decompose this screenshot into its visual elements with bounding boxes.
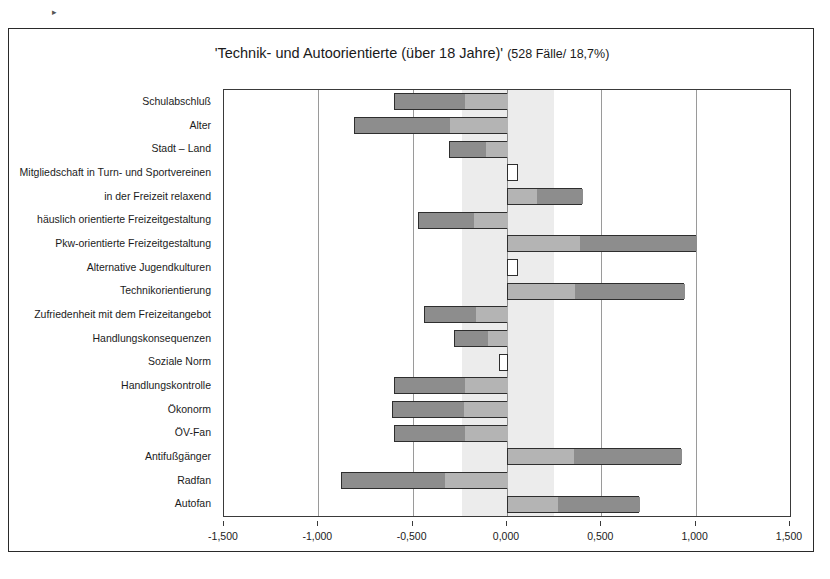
category-label: Autofan [175,497,211,509]
chart-title-sub: (528 Fälle/ 18,7%) [507,47,609,61]
value-axis-labels: -1,500-1,000-0,5000,0000,5001,0001,500 [223,521,791,543]
axis-tick-label: 1,500 [776,530,802,542]
bar [507,283,684,300]
bar-segment-light [464,402,508,417]
category-label: Schulabschluß [142,95,211,107]
category-label: Antifußgänger [145,450,211,462]
bar [449,141,507,158]
chart-title-main: 'Technik- und Autoorientierte (über 18 J… [215,45,503,61]
bar-segment-dark [450,142,486,157]
bar [507,164,518,181]
bar [499,354,508,371]
axis-tick-label: -1,500 [208,530,238,542]
gridline [318,90,319,516]
bar-segment-light [508,284,575,299]
bar-segment-light [508,189,537,204]
bar-segment-light [508,497,558,512]
category-label: Alternative Jugendkulturen [87,261,211,273]
plot-area [223,89,791,517]
bar-segment-dark [580,236,697,251]
bar-segment-light [450,118,508,133]
chart-title: 'Technik- und Autoorientierte (über 18 J… [9,45,815,61]
bar [341,472,507,489]
category-label: Technikorientierung [120,284,211,296]
bar-segment-light [476,307,508,322]
bar-segment-light [488,331,508,346]
plot-inner [224,90,790,516]
stray-mark: ▸ [52,8,59,16]
category-label: Handlungskonsequenzen [92,332,211,344]
axis-tick-mark [223,521,224,526]
bar-segment-dark [574,449,682,464]
bar-segment-light [465,426,508,441]
axis-tick-mark [789,521,790,526]
axis-tick-label: 1,000 [682,530,708,542]
bar-segment-dark [455,331,488,346]
category-label: häuslich orientierte Freizeitgestaltung [37,213,211,225]
bar [454,330,507,347]
axis-tick-mark [506,521,507,526]
category-label: ÖV-Fan [175,426,211,438]
bar [392,401,507,418]
category-label: Soziale Norm [148,355,211,367]
category-label: Ökonorm [168,403,211,415]
bar-segment-dark [419,213,474,228]
bar-segment-light [508,449,574,464]
category-label: Handlungskontrolle [121,379,211,391]
bar-segment-dark [575,284,685,299]
axis-tick-mark [695,521,696,526]
bar-segment-light [486,142,508,157]
category-axis-labels: SchulabschlußAlterStadt – LandMitgliedsc… [9,89,219,517]
axis-tick-mark [600,521,601,526]
bar [354,117,507,134]
axis-tick-label: 0,500 [587,530,613,542]
category-label: Stadt – Land [151,142,211,154]
chart-screenshot: ▸ 'Technik- und Autoorientierte (über 18… [0,0,830,579]
bar-segment-light [465,378,508,393]
bar-segment-dark [425,307,476,322]
bar-segment-dark [537,189,584,204]
category-label: Pkw-orientierte Freizeitgestaltung [55,237,211,249]
category-label: Radfan [177,474,211,486]
bar [424,306,507,323]
bar [507,496,639,513]
bar-segment-light [474,213,508,228]
bar [394,425,507,442]
category-label: Mitgliedschaft in Turn- und Sportvereine… [20,166,211,178]
category-label: in der Freizeit relaxend [104,190,211,202]
bar [507,235,696,252]
axis-tick-label: 0,000 [493,530,519,542]
bar-segment-dark [395,94,465,109]
bar [394,93,507,110]
bar [394,377,507,394]
gridline [413,90,414,516]
bar-segment-dark [558,497,640,512]
bar-segment-dark [393,402,464,417]
axis-tick-mark [317,521,318,526]
axis-tick-label: -0,500 [397,530,427,542]
bar [507,188,582,205]
axis-tick-label: -1,000 [302,530,332,542]
bar [507,448,681,465]
bar-segment-dark [395,378,465,393]
category-label: Alter [189,119,211,131]
bar [418,212,507,229]
bar-segment-light [465,94,508,109]
chart-frame: 'Technik- und Autoorientierte (über 18 J… [8,28,814,552]
bar-segment-dark [395,426,465,441]
category-label: Zufriedenheit mit dem Freizeitangebot [34,308,211,320]
bar-segment-light [445,473,508,488]
bar-segment-dark [355,118,450,133]
bar-segment-light [508,236,580,251]
bar [507,259,518,276]
bar-segment-dark [342,473,445,488]
axis-tick-mark [412,521,413,526]
gridline [696,90,697,516]
